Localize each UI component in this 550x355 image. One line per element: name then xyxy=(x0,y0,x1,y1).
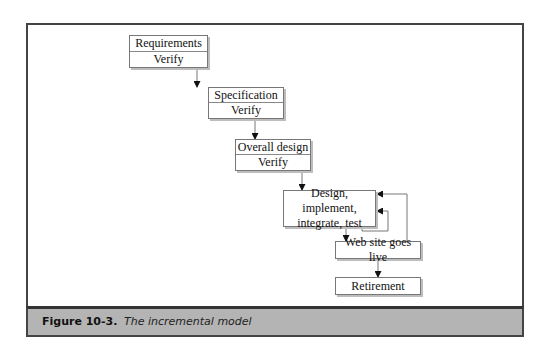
node-sublabel: Verify xyxy=(209,103,283,118)
figure-title: The incremental model xyxy=(124,315,252,328)
node-web-site-live: Web site goes live xyxy=(335,241,421,259)
connector-lines xyxy=(0,0,550,355)
node-requirements: Requirements Verify xyxy=(129,35,208,68)
node-specification: Specification Verify xyxy=(208,87,284,119)
node-label: Retirement xyxy=(351,279,404,294)
node-label: Overall design xyxy=(236,140,310,155)
caption-band: Figure 10-3. The incremental model xyxy=(26,306,524,337)
node-label: Design, implement, integrate, test xyxy=(286,186,373,231)
figure-number: Figure 10-3. xyxy=(42,315,117,328)
node-label: Web site goes live xyxy=(336,235,420,265)
node-sublabel: Verify xyxy=(130,52,207,68)
node-label: Requirements xyxy=(130,36,207,52)
node-overall-design: Overall design Verify xyxy=(235,139,311,171)
node-retirement: Retirement xyxy=(335,277,421,295)
node-label: Specification xyxy=(209,88,283,103)
node-design-implement: Design, implement, integrate, test xyxy=(283,190,376,227)
node-sublabel: Verify xyxy=(236,155,310,170)
